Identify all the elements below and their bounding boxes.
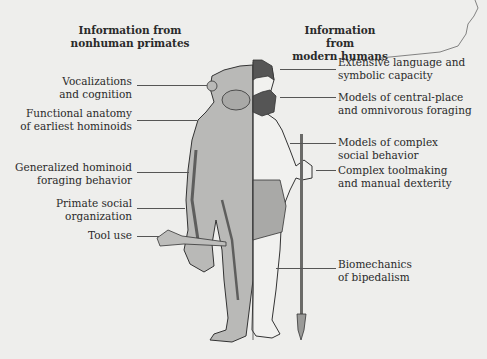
leader-line xyxy=(290,143,336,144)
leader-line xyxy=(316,170,336,171)
label-vocalizations: Vocalizations and cognition xyxy=(50,75,132,101)
leader-line xyxy=(137,172,189,173)
label-language: Extensive language and symbolic capacity xyxy=(338,56,483,82)
leader-line xyxy=(137,85,207,86)
leader-line xyxy=(280,97,336,98)
label-toolmaking: Complex toolmaking and manual dexterity xyxy=(338,164,483,190)
label-tool-use: Tool use xyxy=(50,229,132,242)
leader-line xyxy=(276,268,336,269)
chimpanzee-half xyxy=(157,65,253,342)
label-functional-anatomy: Functional anatomy of earliest hominoids xyxy=(10,107,132,133)
human-half xyxy=(252,60,312,340)
leader-line xyxy=(137,208,185,209)
leader-line xyxy=(280,69,336,70)
label-complex-social: Models of complex social behavior xyxy=(338,136,483,162)
label-primate-social: Primate social organization xyxy=(30,197,132,223)
paper-edge xyxy=(380,0,478,58)
label-generalized-foraging: Generalized hominoid foraging behavior xyxy=(10,161,132,187)
leader-line xyxy=(137,120,197,121)
label-central-place-foraging: Models of central-place and omnivorous f… xyxy=(338,91,483,117)
label-bipedalism: Biomechanics of bipedalism xyxy=(338,258,483,284)
leader-line xyxy=(137,236,159,237)
